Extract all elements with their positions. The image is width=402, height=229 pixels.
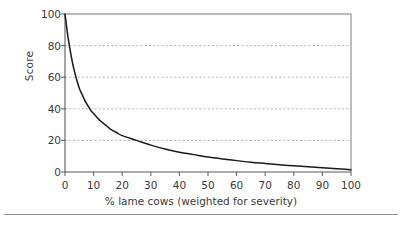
x-axis-title: % lame cows (weighted for severity) [0,195,402,207]
chart-figure: 100 80 60 40 20 0 0 10 20 30 40 50 60 70… [0,0,402,229]
x-tick-0: 0 [50,180,80,191]
x-tick-30: 30 [136,180,166,191]
x-tick-60: 60 [222,180,252,191]
x-tick-90: 90 [307,180,337,191]
x-tick-10: 10 [79,180,109,191]
x-tick-70: 70 [250,180,280,191]
y-axis-title: Score [23,31,35,101]
x-tick-50: 50 [193,180,223,191]
x-tick-20: 20 [107,180,137,191]
bottom-divider-rule [4,214,398,215]
x-tick-80: 80 [279,180,309,191]
x-tick-100: 100 [336,180,366,191]
x-tick-40: 40 [164,180,194,191]
